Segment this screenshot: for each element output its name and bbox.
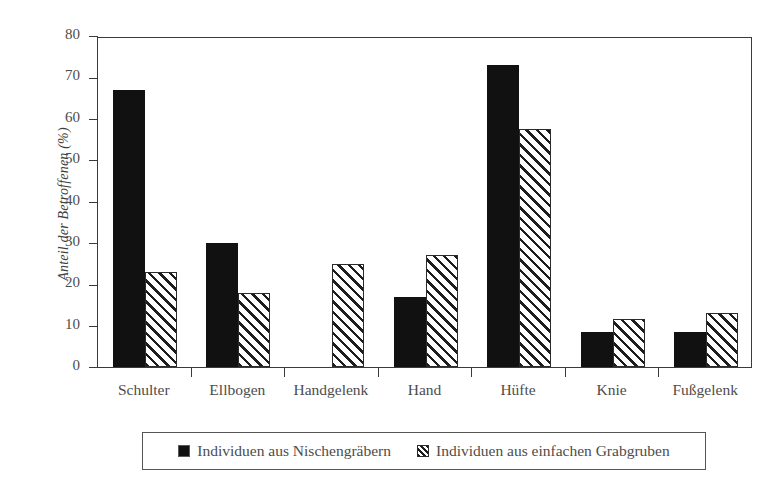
bar [706,313,738,367]
bars-layer [98,38,751,367]
x-axis-tick [471,368,472,377]
y-axis-tick-label: 60 [28,109,80,126]
x-axis-tick [378,368,379,377]
x-axis-category-label: Ellbogen [191,381,285,399]
bar [332,264,364,367]
bar [426,255,458,367]
y-axis-tick-label: 10 [28,316,80,333]
bar [519,129,551,367]
x-axis-tick [284,368,285,377]
y-axis-tick-label: 80 [28,26,80,43]
solid-square-icon [178,445,190,457]
x-axis-category-label: Knie [565,381,659,399]
bar [581,332,613,367]
bar [145,272,177,367]
y-axis-tick-label: 50 [28,150,80,167]
hatched-square-icon [417,445,429,457]
x-axis-category-label: Handgelenk [284,381,378,399]
x-axis-category-label: Hüfte [471,381,565,399]
y-axis-tick-label: 20 [28,274,80,291]
bar [674,332,706,367]
x-axis-category-label: Hand [378,381,472,399]
x-axis-category-label: Fußgelenk [658,381,752,399]
legend-entry: Individuen aus einfachen Grabgruben [417,442,670,460]
chart-legend: Individuen aus NischengräbernIndividuen … [142,432,706,470]
bar [613,319,645,367]
y-axis-tick-label: 30 [28,233,80,250]
bar [394,297,426,367]
legend-label: Individuen aus Nischengräbern [197,442,391,460]
plot-area [97,37,752,368]
x-axis-tick [658,368,659,377]
y-axis-tick-label: 0 [28,357,80,374]
y-axis-tick-label: 40 [28,192,80,209]
x-axis-category-label: Schulter [97,381,191,399]
legend-entry: Individuen aus Nischengräbern [178,442,391,460]
y-axis-tick-label: 70 [28,67,80,84]
x-axis-tick [191,368,192,377]
legend-label: Individuen aus einfachen Grabgruben [436,442,670,460]
x-axis-tick [565,368,566,377]
bar [113,90,145,367]
bar-chart-figure: Anteil der Betroffenen (%) 0102030405060… [0,0,782,482]
bar [487,65,519,367]
bar [238,293,270,367]
bar [206,243,238,367]
